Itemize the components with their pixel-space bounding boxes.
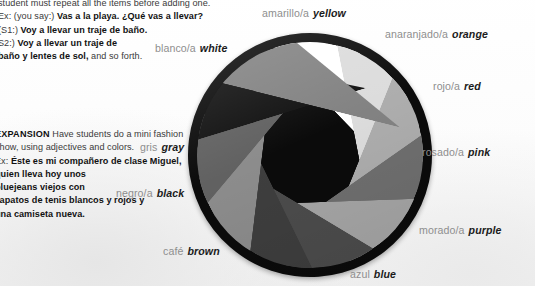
expansion-line-3: Ex: Éste es mi compañero de clase Miguel… xyxy=(0,155,183,168)
wheel-label-rosado-english: pink xyxy=(468,146,490,158)
wheel-label-negro-english: black xyxy=(157,187,185,199)
wheel-label-negro: negro/ablack xyxy=(116,187,184,199)
wheel-label-blanco-spanish: blanco/a xyxy=(155,42,196,54)
wheel-label-rojo: rojo/ared xyxy=(433,80,481,92)
wheel-label-cafe-english: brown xyxy=(187,245,219,257)
expansion-line-1: EXPANSION Have students do a mini fashio… xyxy=(0,128,183,141)
wheel-label-blanco-english: white xyxy=(200,42,228,54)
wheel-label-gris-spanish: gris xyxy=(140,141,157,153)
wheel-label-anaranjado: anaranjado/aorange xyxy=(385,28,488,40)
wheel-label-cafe: cafébrown xyxy=(163,245,220,257)
activity-line-2: Ex: (you say:) Vas a la playa. ¿Qué vas … xyxy=(0,10,210,23)
wheel-label-amarillo: amarillo/ayellow xyxy=(262,7,346,19)
wheel-label-azul-spanish: azul xyxy=(350,268,370,280)
wheel-label-anaranjado-spanish: anaranjado/a xyxy=(385,28,448,40)
expansion-line-7: una camiseta nueva. xyxy=(0,208,183,221)
expansion-line-4: quien lleva hoy unos xyxy=(0,168,183,181)
activity-line-3: (S1:) Voy a llevar un traje de baño. xyxy=(0,24,210,37)
wheel-label-azul: azulblue xyxy=(350,268,396,280)
activity-line-1: student must repeat all the items before… xyxy=(0,0,210,10)
wheel-label-anaranjado-english: orange xyxy=(452,28,488,40)
wheel-label-blanco: blanco/awhite xyxy=(155,42,227,54)
wheel-label-rosado-spanish: rosado/a xyxy=(422,146,464,158)
wheel-label-gris-english: gray xyxy=(161,141,184,153)
wheel-label-amarillo-english: yellow xyxy=(313,7,346,19)
wheel-label-azul-english: blue xyxy=(374,268,396,280)
textbook-page: student must repeat all the items before… xyxy=(0,0,535,286)
wheel-label-rojo-english: red xyxy=(464,80,481,92)
color-wheel-disc xyxy=(189,34,430,275)
wheel-label-amarillo-spanish: amarillo/a xyxy=(262,7,309,19)
wheel-label-morado-english: purple xyxy=(469,224,502,236)
wheel-label-rojo-spanish: rojo/a xyxy=(433,80,460,92)
wheel-label-negro-spanish: negro/a xyxy=(116,187,153,199)
wheel-label-rosado: rosado/apink xyxy=(422,146,490,158)
wheel-label-cafe-spanish: café xyxy=(163,245,183,257)
wheel-label-morado: morado/apurple xyxy=(419,224,502,236)
wheel-label-morado-spanish: morado/a xyxy=(419,224,465,236)
wheel-label-gris: grisgray xyxy=(140,141,184,153)
